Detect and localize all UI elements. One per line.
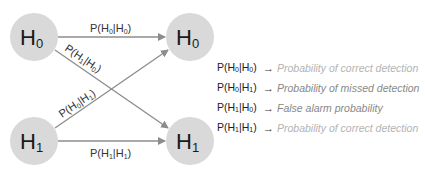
node-h0-left: H0 [10,13,58,61]
node-h1-left: H1 [10,117,58,165]
legend-row-false-alarm: P(H1|H0) → False alarm probability [217,98,419,118]
edge-label-h0-h1: P(H0|H1) [56,87,97,121]
node-h1-right: H1 [166,117,214,165]
edge-label-h0-h0: P(H0|H0) [90,22,131,35]
node-h0-right: H0 [166,13,214,61]
edge-label-h1-h1: P(H1|H1) [90,147,131,160]
arrow-right-icon: → [263,78,277,98]
legend-description: Probability of missed detection [277,78,419,98]
legend: P(H0|H0) → Probability of correct detect… [217,58,419,138]
legend-description: Probability of correct detection [277,58,418,78]
legend-row-missed-detection: P(H0|H1) → Probability of missed detecti… [217,78,419,98]
arrow-right-icon: → [263,98,277,118]
arrow-right-icon: → [263,58,277,78]
arrow-right-icon: → [263,118,277,138]
legend-description: Probability of correct detection [277,118,418,138]
legend-key: P(H1|H1) [217,117,263,140]
legend-row-correct-detection-h1: P(H1|H1) → Probability of correct detect… [217,118,419,138]
legend-description: False alarm probability [277,98,383,118]
detection-diagram: P(H0|H0) P(H1|H0) P(H0|H1) P(H1|H1) H0 H… [0,0,215,175]
legend-row-correct-detection-h0: P(H0|H0) → Probability of correct detect… [217,58,419,78]
